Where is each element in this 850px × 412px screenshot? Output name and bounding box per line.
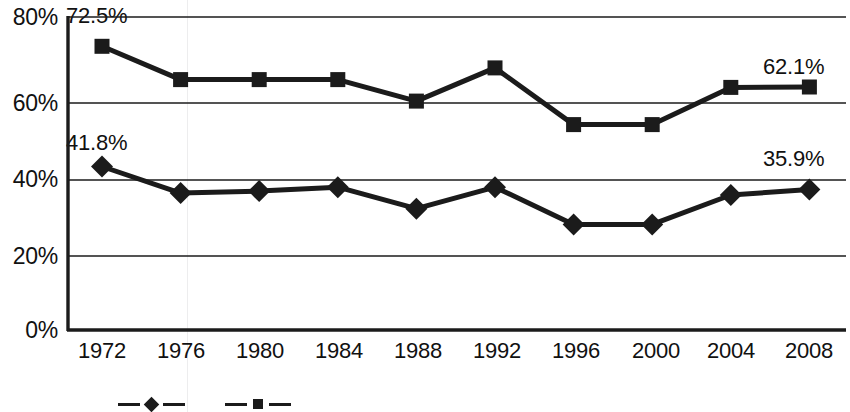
diamond-marker-icon [563,213,585,235]
axis-lines [67,16,846,331]
square-marker-icon [488,60,503,75]
legend-line-icon [163,403,185,406]
diamond-marker-icon [720,184,742,206]
chart-container: 80% 60% 40% 20% 0% 1972 1976 1980 1984 1… [0,0,850,412]
square-marker-icon [252,72,267,87]
chart-legend [118,396,323,412]
legend-item-1[interactable] [225,399,297,409]
square-marker-icon [723,80,738,95]
legend-line-icon [225,403,247,406]
square-marker-icon [95,39,110,54]
legend-line-icon [118,403,140,406]
diamond-marker-icon [144,396,160,412]
series-lower [91,156,820,236]
series-line [102,46,809,124]
square-marker-icon [802,80,817,95]
legend-line-icon [269,403,291,406]
plot-area [0,0,850,412]
square-marker-icon [566,117,581,132]
legend-item-0[interactable] [118,399,191,410]
square-marker-icon [330,72,345,87]
diamond-marker-icon [170,182,192,204]
diamond-marker-icon [405,198,427,220]
diamond-marker-icon [641,213,663,235]
square-marker-icon [173,72,188,87]
series-line [102,167,809,225]
diamond-marker-icon [248,180,270,202]
series-layer [91,39,820,236]
diamond-marker-icon [798,179,820,201]
square-marker-icon [409,94,424,109]
square-marker-icon [645,117,660,132]
square-marker-icon [253,399,263,409]
diamond-marker-icon [91,156,113,178]
series-upper [95,39,817,132]
gridlines [67,17,846,256]
